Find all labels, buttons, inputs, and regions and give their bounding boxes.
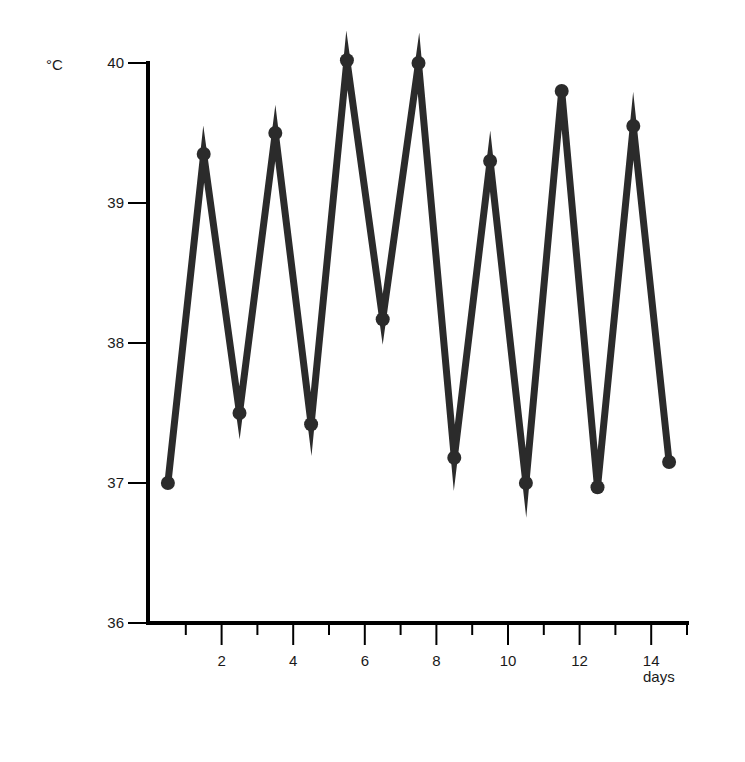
data-point [519,476,533,490]
data-point [591,480,605,494]
x-tick-label: 8 [432,652,440,669]
x-tick-label: 10 [500,652,517,669]
data-point [161,476,175,490]
x-axis-label: days [643,668,675,685]
y-tick-label: 40 [107,54,124,71]
x-tick-label: 12 [571,652,588,669]
data-point [483,154,497,168]
x-tick-label: 2 [217,652,225,669]
data-point [626,119,640,133]
data-point [304,417,318,431]
y-tick-label: 37 [107,474,124,491]
data-point [197,147,211,161]
temperature-chart: 3637383940 2468101214 °C days [0,0,745,762]
x-tick-label: 14 [643,652,660,669]
y-tick-label: 36 [107,614,124,631]
data-point [662,455,676,469]
y-tick-label: 39 [107,194,124,211]
data-point [447,451,461,465]
data-point [412,56,426,70]
data-point [376,312,390,326]
y-axis-ticks: 3637383940 [107,54,148,631]
x-tick-label: 6 [361,652,369,669]
temperature-line [168,60,669,487]
y-axis-unit-label: °C [46,56,63,73]
x-tick-label: 4 [289,652,297,669]
data-point [268,126,282,140]
y-tick-label: 38 [107,334,124,351]
data-point [233,406,247,420]
data-point [555,84,569,98]
x-axis-ticks: 2468101214 [186,623,687,669]
data-point [340,53,354,67]
